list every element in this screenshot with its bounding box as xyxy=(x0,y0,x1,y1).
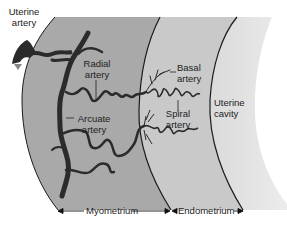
arcuate-artery-label-line1: Arcuate xyxy=(74,113,114,124)
uterine-cavity-label: Uterine cavity xyxy=(214,97,245,119)
uterine-artery-label: Uterine artery xyxy=(4,6,44,28)
spiral-artery-label: Spiral artery xyxy=(160,108,196,130)
radial-artery-label-line2: artery xyxy=(80,69,114,80)
basal-artery-label: Basal artery xyxy=(177,62,201,84)
spiral-artery-label-line1: Spiral xyxy=(160,108,196,119)
arcuate-artery-label-line2: artery xyxy=(74,124,114,135)
radial-artery-label: Radial artery xyxy=(80,58,114,80)
uterine-cavity-label-line1: Uterine xyxy=(214,97,245,108)
radial-artery-label-line1: Radial xyxy=(80,58,114,69)
myometrium-label: Myometrium xyxy=(86,205,138,216)
arcuate-artery-label: Arcuate artery xyxy=(74,113,114,135)
basal-artery-label-line1: Basal xyxy=(177,62,201,73)
uterine-artery-label-line2: artery xyxy=(4,17,44,28)
spiral-artery-label-line2: artery xyxy=(160,119,196,130)
uterine-artery-label-line1: Uterine xyxy=(4,6,44,17)
basal-artery-label-line2: artery xyxy=(177,73,201,84)
uterine-cavity-label-line2: cavity xyxy=(214,108,245,119)
endometrium-label: Endometrium xyxy=(178,205,235,216)
